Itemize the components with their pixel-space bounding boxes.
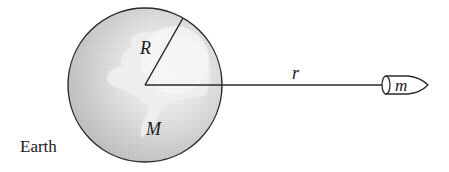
- radius-label: R: [139, 38, 151, 58]
- projectile-base: [382, 76, 390, 94]
- gravitation-diagram: R M r m Earth: [0, 0, 449, 172]
- mass-label-planet: M: [145, 119, 162, 139]
- earth-label: Earth: [20, 137, 57, 156]
- earth-globe: [60, 0, 230, 172]
- mass-label-object: m: [395, 76, 407, 95]
- distance-label: r: [292, 63, 300, 83]
